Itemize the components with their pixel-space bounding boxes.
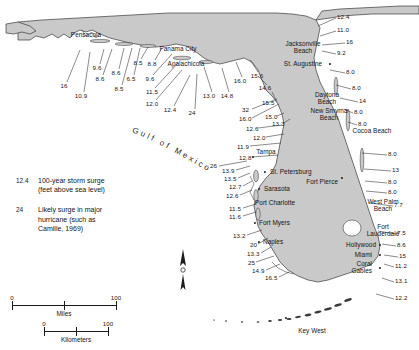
surge-value: 16.0 <box>239 116 251 122</box>
surge-value: 12.0 <box>253 135 265 141</box>
surge-leader-line <box>141 47 148 59</box>
surge-value: 13 <box>392 167 399 173</box>
city-label: Cocoa Beach <box>353 127 392 134</box>
city-label: Naples <box>263 238 283 245</box>
surge-leader-line <box>320 31 336 36</box>
city-label: Panama City <box>159 45 196 52</box>
surge-value: 15 <box>399 253 406 259</box>
surge-leader-line <box>100 49 104 64</box>
surge-value: 16 <box>60 83 67 89</box>
city-label: West Palm Beach <box>367 198 398 212</box>
scale-km-max: 100 <box>103 320 113 327</box>
surge-value: 25 <box>248 260 255 266</box>
surge-value: 8.6 <box>112 70 121 76</box>
north-arrow-icon <box>176 248 190 292</box>
surge-value: 26 <box>210 163 217 169</box>
surge-value: 13.3 <box>272 121 284 127</box>
city-label: Jacksonville Beach <box>285 40 320 54</box>
scale-bar-kilometers: 0 100 Kilometers <box>44 320 162 346</box>
surge-value: 8.5 <box>134 60 143 66</box>
surge-value: 32 <box>242 107 249 113</box>
surge-value: 8.0 <box>388 151 397 157</box>
surge-value: 8.0 <box>358 121 367 127</box>
surge-leader-line <box>340 98 358 102</box>
city-label: Apalachicola <box>168 60 205 67</box>
surge-value: 8.0 <box>352 85 361 91</box>
legend-entry-key: 12.4 <box>16 176 38 184</box>
surge-value: 8.5 <box>115 86 124 92</box>
surge-value: 14.9 <box>252 268 264 274</box>
city-label: Fort Myers <box>259 219 290 226</box>
surge-leader-line <box>247 230 262 235</box>
surge-value: 16.5 <box>265 275 277 281</box>
surge-value: 13.5 <box>224 176 236 182</box>
city-label: Miami <box>355 251 372 258</box>
land-northeast-corner <box>316 6 419 20</box>
surge-value: 8.0 <box>388 189 397 195</box>
legend-entry-description: 100-year storm surge (feet above sea lev… <box>38 176 105 194</box>
surge-value: 9.6 <box>93 65 102 71</box>
surge-value: 24 <box>188 110 195 116</box>
surge-value: 16.0 <box>234 78 246 84</box>
surge-value: 8.0 <box>354 109 363 115</box>
city-label: Key West <box>298 327 326 334</box>
city-label: Coral Gables <box>351 260 372 274</box>
surge-value: 11.5 <box>229 206 241 212</box>
city-label: Port Charlotte <box>255 199 295 206</box>
surge-value: 6.5 <box>127 76 136 82</box>
surge-value: 14.8 <box>221 93 233 99</box>
surge-value: 12.6 <box>226 193 238 199</box>
surge-value: 12.4 <box>337 14 349 20</box>
scale-miles-min: 0 <box>10 294 13 301</box>
surge-value: 12.2 <box>395 295 407 301</box>
storm-surge-map: Gulf of Mexico 1610.99.68.68.68.56.58.58… <box>0 0 419 350</box>
surge-leader-line <box>67 50 80 82</box>
city-label: Pensacola <box>71 31 101 38</box>
surge-value: 16 <box>346 39 353 45</box>
scale-km-label: Kilometers <box>61 336 91 343</box>
surge-leader-line <box>174 75 190 106</box>
city-label: Daytona Beach <box>315 91 339 105</box>
scale-bars: 0 100 Miles 0 100 Kilometers <box>12 294 162 346</box>
surge-leader-line <box>322 51 336 54</box>
surge-leader-line <box>243 212 256 216</box>
surge-leader-line <box>222 68 229 92</box>
surge-value: 11.6 <box>229 214 241 220</box>
legend: 12.4100-year storm surge (feet above sea… <box>16 176 176 244</box>
surge-value: 8.6 <box>397 242 406 248</box>
surge-leader-line <box>384 264 394 267</box>
legend-entry: 24Likely surge in major hurricane (such … <box>16 205 176 233</box>
city-label: Tampa <box>256 148 275 155</box>
surge-leader-line <box>119 48 124 69</box>
city-label: Fort Pierce <box>306 178 338 185</box>
surge-leader-line <box>261 247 271 253</box>
city-label: Hollywood <box>346 241 376 248</box>
legend-entry-key: 24 <box>16 205 38 213</box>
surge-leader-line <box>336 85 351 89</box>
surge-leader-line <box>322 43 345 45</box>
surge-leader-line <box>204 67 212 92</box>
surge-value: 11.9 <box>237 144 249 150</box>
surge-value: 13.3 <box>247 251 259 257</box>
scale-km-min: 0 <box>42 320 45 327</box>
surge-value: 10.9 <box>75 93 87 99</box>
surge-value: 12.7 <box>229 184 241 190</box>
surge-leader-line <box>266 264 280 270</box>
surge-value: 11.2 <box>395 263 407 269</box>
city-label: New Smyrna Beach <box>310 107 347 121</box>
surge-value: 14 <box>359 98 366 104</box>
surge-value: 13.9 <box>222 168 234 174</box>
city-label: St. Augustine <box>284 60 322 67</box>
surge-value: 12.6 <box>246 126 258 132</box>
surge-value: 13.2 <box>233 233 245 239</box>
legend-entry: 12.4100-year storm surge (feet above sea… <box>16 176 176 194</box>
surge-value: 9.6 <box>146 76 155 82</box>
scale-bar-miles: 0 100 Miles <box>12 294 162 320</box>
surge-value: 12.0 <box>146 101 158 107</box>
surge-leader-line <box>365 181 387 183</box>
surge-value: 20 <box>250 242 257 248</box>
surge-leader-line <box>382 278 394 282</box>
scale-miles-label: Miles <box>57 310 72 317</box>
surge-value: 8.0 <box>346 69 355 75</box>
gulf-of-mexico-text: Gulf of Mexico <box>131 128 213 174</box>
